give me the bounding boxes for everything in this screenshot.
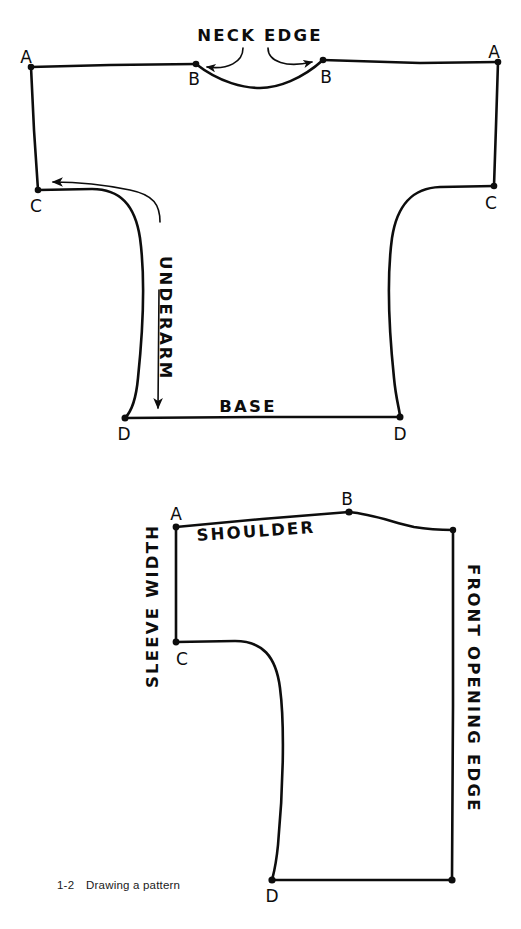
label-front-opening-edge: FRONT OPENING EDGE — [464, 564, 483, 813]
point-label-b-left: B — [188, 69, 200, 89]
pattern-figure: NECK EDGE UNDERARM BASE A B B A C C D D — [0, 0, 521, 929]
point-label-b-right: B — [320, 67, 332, 87]
caption-number: 1-2 — [57, 879, 74, 891]
top-right-underarm-curve — [389, 186, 494, 417]
caption-label: Drawing a pattern — [86, 879, 180, 891]
underarm-leader-arrow-to-c — [53, 182, 160, 222]
point-label-bottom-b: B — [341, 489, 353, 509]
vertex-dot-bottom-a — [173, 524, 180, 531]
vertex-dot-b-left — [193, 61, 200, 68]
top-right-sleeve-end-edge — [494, 62, 498, 186]
point-label-bottom-d: D — [265, 886, 278, 906]
neck-edge-leader-arrow-right — [268, 48, 312, 64]
label-shoulder: SHOULDER — [196, 518, 316, 545]
vertex-dot-bottom-b — [345, 508, 352, 515]
bottom-neck-edge-curve — [349, 512, 453, 530]
vertex-dot-c-right — [491, 183, 498, 190]
bottom-underarm-curve — [176, 641, 283, 880]
point-label-a-left: A — [20, 47, 32, 67]
top-base-edge — [125, 417, 400, 418]
point-label-d-left: D — [117, 424, 130, 444]
point-label-d-right: D — [393, 424, 406, 444]
point-label-bottom-c: C — [176, 649, 188, 669]
neck-edge-leader-arrow-left — [207, 48, 243, 68]
label-underarm: UNDERARM — [156, 256, 175, 380]
top-left-underarm-curve — [38, 189, 143, 418]
vertex-dot-d-left — [122, 415, 129, 422]
bottom-diagram-group: SLEEVE WIDTH SHOULDER FRONT OPENING EDGE… — [143, 489, 483, 906]
label-sleeve-width: SLEEVE WIDTH — [143, 524, 162, 688]
vertex-dot-d-right — [397, 414, 404, 421]
pattern-drawing-canvas: NECK EDGE UNDERARM BASE A B B A C C D D — [0, 0, 521, 929]
vertex-dot-bottom-d — [268, 876, 275, 883]
vertex-dot-bottom-neck-corner — [450, 527, 456, 533]
label-base: BASE — [219, 397, 276, 416]
top-left-shoulder-edge — [31, 64, 196, 67]
top-diagram-group: NECK EDGE UNDERARM BASE A B B A C C D D — [20, 26, 501, 444]
point-label-bottom-a: A — [170, 504, 182, 524]
vertex-dot-bottom-base-corner — [448, 876, 455, 883]
bottom-front-opening-edge — [452, 530, 453, 880]
vertex-dot-b-right — [320, 57, 327, 64]
point-label-a-right: A — [488, 42, 500, 62]
vertex-dot-bottom-c — [173, 639, 180, 646]
point-label-c-left: C — [30, 196, 42, 216]
vertex-dot-c-left — [35, 187, 42, 194]
label-neck-edge: NECK EDGE — [197, 26, 322, 45]
top-left-sleeve-end-edge — [31, 67, 38, 190]
point-label-c-right: C — [485, 193, 497, 213]
top-right-shoulder-edge — [323, 60, 498, 63]
figure-caption: 1-2 Drawing a pattern — [57, 879, 180, 891]
